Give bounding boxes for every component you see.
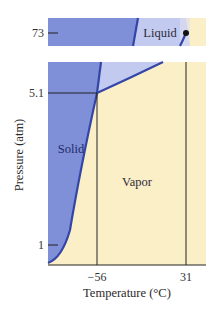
y-tick-5-1: 5.1	[29, 86, 44, 100]
x-tick-31: 31	[180, 270, 192, 284]
region-label-liquid: Liquid	[143, 26, 177, 40]
x-tick-minus-56: −56	[88, 270, 107, 284]
y-axis-label: Pressure (atm)	[12, 119, 26, 192]
phase-diagram: 73 5.1 1 −56 31 Temperature (°C) Pressur…	[0, 0, 218, 327]
region-label-solid: Solid	[58, 142, 85, 156]
y-tick-73: 73	[32, 26, 44, 40]
y-tick-1: 1	[38, 238, 44, 252]
bottom-panel	[48, 62, 206, 265]
x-axis-label: Temperature (°C)	[83, 286, 171, 300]
top-panel	[48, 18, 206, 46]
region-label-vapor: Vapor	[122, 175, 153, 189]
